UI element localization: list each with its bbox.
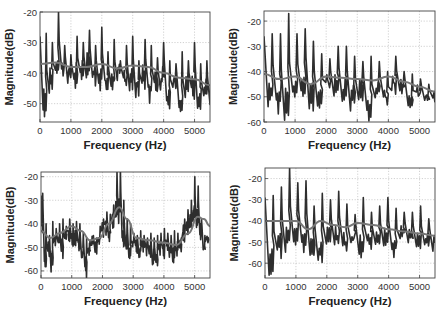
subplot-top-right: 010002000300040005000-20-30-40-50-60Freq…	[227, 11, 438, 151]
x-tick-label: 4000	[153, 281, 174, 292]
y-tick-label: -60	[247, 117, 261, 128]
x-tick-label: 4000	[378, 125, 399, 136]
y-tick-label: -30	[23, 37, 37, 48]
y-tick-label: -30	[247, 41, 261, 52]
y-tick-label: -30	[248, 194, 262, 205]
x-tick-label: 4000	[153, 125, 174, 136]
spectrum-line	[41, 170, 209, 278]
x-tick-label: 5000	[409, 125, 430, 136]
subplot-bottom-left: 010002000300040005000-20-30-40-50-60Freq…	[4, 170, 210, 307]
x-tick-label: 0	[262, 281, 267, 292]
y-tick-label: -40	[24, 218, 38, 229]
x-tick-label: 5000	[184, 125, 205, 136]
x-tick-label: 2000	[316, 125, 337, 136]
y-tick-label: -20	[23, 7, 37, 18]
x-axis-label: Frequency (Hz)	[83, 139, 166, 151]
y-tick-label: -50	[24, 242, 38, 253]
figure: 010002000300040005000-20-30-40-50Frequen…	[0, 0, 445, 319]
y-axis-label: Magnitude(dB)	[3, 28, 15, 105]
x-axis-label: Frequency (Hz)	[84, 295, 167, 307]
x-tick-label: 1000	[285, 281, 306, 292]
x-tick-label: 5000	[184, 281, 205, 292]
x-axis-label: Frequency (Hz)	[308, 295, 391, 307]
x-tick-label: 0	[37, 125, 42, 136]
y-axis-label: Magnitude(dB)	[4, 186, 16, 263]
y-tick-label: -20	[248, 173, 262, 184]
x-tick-label: 5000	[409, 281, 430, 292]
y-tick-label: -60	[24, 265, 38, 276]
x-tick-label: 1000	[61, 281, 82, 292]
x-axis-label: Frequency (Hz)	[308, 139, 391, 151]
y-tick-label: -50	[247, 91, 261, 102]
y-tick-label: -40	[248, 215, 262, 226]
x-tick-label: 1000	[60, 125, 81, 136]
y-tick-label: -30	[24, 195, 38, 206]
y-tick-label: -40	[247, 66, 261, 77]
x-tick-label: 3000	[123, 281, 144, 292]
spectrum-line	[264, 14, 438, 121]
y-tick-label: -20	[247, 16, 261, 27]
x-tick-label: 2000	[316, 281, 337, 292]
x-tick-label: 0	[261, 125, 266, 136]
x-tick-label: 3000	[122, 125, 143, 136]
y-tick-label: -60	[248, 258, 262, 269]
x-tick-label: 4000	[378, 281, 399, 292]
y-axis-label: Magnitude(dB)	[227, 28, 239, 105]
x-tick-label: 3000	[347, 125, 368, 136]
y-tick-label: -50	[248, 237, 262, 248]
y-tick-label: -50	[23, 98, 37, 109]
y-axis-label: Magnitude(dB)	[228, 184, 240, 261]
x-tick-label: 2000	[91, 125, 112, 136]
x-tick-label: 1000	[285, 125, 306, 136]
x-tick-label: 2000	[92, 281, 113, 292]
y-tick-label: -20	[24, 171, 38, 182]
y-tick-label: -40	[23, 68, 37, 79]
subplot-bottom-right: 010002000300040005000-20-30-40-50-60Freq…	[228, 168, 445, 307]
x-tick-label: 0	[38, 281, 43, 292]
x-tick-label: 3000	[347, 281, 368, 292]
